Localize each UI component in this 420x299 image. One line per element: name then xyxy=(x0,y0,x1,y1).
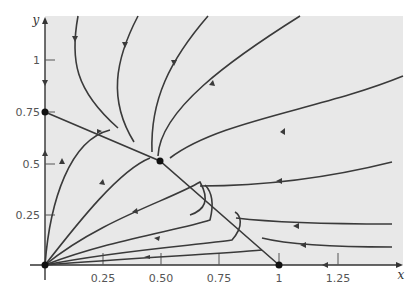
x-tick-label: 1 xyxy=(276,272,283,285)
y-tick-label: 1 xyxy=(33,54,40,67)
x-tick-label: 0.75 xyxy=(207,272,232,285)
phase-portrait: 0.25 0.50 0.75 1 1.25 x 0.25 0.5 0.75 1 … xyxy=(0,0,420,299)
y-tick-label: 0.5 xyxy=(23,158,41,171)
critical-point-x-intercept xyxy=(276,262,283,269)
x-tick-label: 0.25 xyxy=(91,272,116,285)
critical-point-origin xyxy=(42,262,49,269)
x-tick-label: 1.25 xyxy=(326,272,351,285)
critical-point-saddle xyxy=(157,158,164,165)
x-tick-label: 0.50 xyxy=(149,272,174,285)
y-tick-label: 0.75 xyxy=(16,106,41,119)
x-axis-label: x xyxy=(398,268,405,282)
y-tick-label: 0.25 xyxy=(16,209,41,222)
plot-background xyxy=(45,16,403,265)
critical-point-y-intercept xyxy=(42,109,49,116)
y-axis-label: y xyxy=(32,13,40,27)
